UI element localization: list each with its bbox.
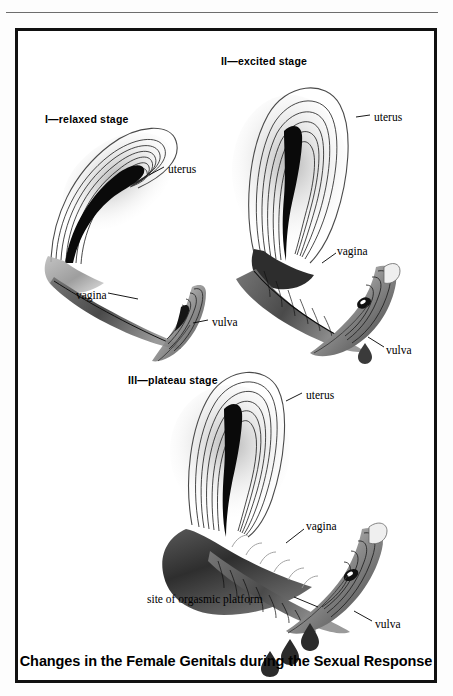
stage-3-label-orgasmic-platform: site of orgasmic platform <box>147 593 263 605</box>
leader-stage2-vulva <box>368 337 384 347</box>
stage-3-title: III—plateau stage <box>128 374 218 386</box>
figure-page: I—relaxed stage uterus vagina vulva II—e… <box>0 0 453 696</box>
droplet <box>358 343 372 364</box>
stage-2-drawing <box>232 88 400 364</box>
stage-2-label-uterus: uterus <box>374 111 402 123</box>
stage-1-label-vagina: vagina <box>76 289 107 301</box>
anatomical-illustration <box>18 31 434 680</box>
leader-stage3-vulva <box>354 611 372 621</box>
leader-stage3-uterus <box>286 393 302 401</box>
top-rule-divider <box>6 12 438 13</box>
stage-3-drawing <box>162 372 387 677</box>
stage-1-drawing <box>44 112 208 361</box>
stage-1-label-uterus: uterus <box>168 163 196 175</box>
figure-caption: Changes in the Female Genitals during th… <box>18 653 434 669</box>
stage-3-label-uterus: uterus <box>306 389 334 401</box>
stage-3-label-vagina: vagina <box>306 520 337 532</box>
stage-1-label-vulva: vulva <box>212 316 238 328</box>
leader-stage1-vagina <box>108 293 138 299</box>
stage-2-label-vagina: vagina <box>337 245 368 257</box>
leader-stage3-vagina <box>286 529 304 543</box>
stage-1-title: I—relaxed stage <box>45 113 129 125</box>
figure-plate: I—relaxed stage uterus vagina vulva II—e… <box>15 28 437 683</box>
stage-2-title: II—excited stage <box>221 55 307 67</box>
leader-stage2-uterus <box>356 115 370 117</box>
leader-stage2-vagina <box>322 253 336 263</box>
stage-2-label-vulva: vulva <box>386 344 412 356</box>
stage-3-label-vulva: vulva <box>375 618 401 630</box>
